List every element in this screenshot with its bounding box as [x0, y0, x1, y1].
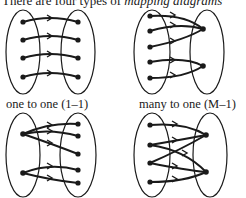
domain-ellipse [6, 113, 40, 197]
mapping-diagrams-figure [0, 0, 246, 198]
range-ellipse [193, 113, 227, 197]
diagram-one-to-many [6, 113, 96, 197]
diagram-many-to-many [134, 113, 227, 197]
diagram-many-to-one [134, 10, 224, 94]
domain-ellipse [134, 10, 170, 94]
diagram-one-to-one [6, 10, 95, 94]
